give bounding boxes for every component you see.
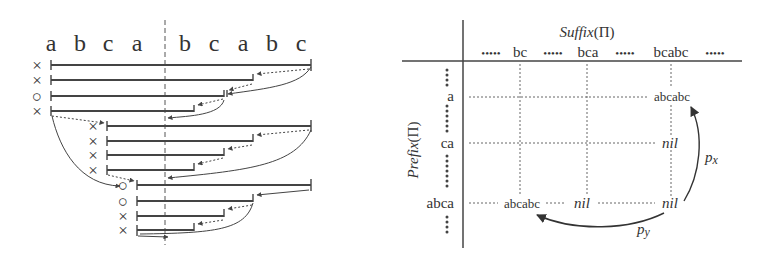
cell-abca-bc: abcabc bbox=[504, 196, 540, 211]
row-a: a bbox=[447, 88, 454, 104]
marker-cross: × bbox=[118, 221, 128, 240]
letter-7: b bbox=[266, 30, 278, 56]
column-header: Suffix(Π) bbox=[560, 24, 615, 41]
column-leader: ••••• bbox=[705, 47, 724, 59]
cell-a-bcabc: abcabc bbox=[654, 89, 690, 104]
cells: abcabc nil abcabc nil nil bbox=[504, 89, 690, 211]
right-diagram: Suffix(Π) ••••• bc ••••• bca ••••• bcabc… bbox=[402, 20, 742, 248]
group-3-markers: ○ ○ × × bbox=[118, 176, 128, 240]
px-arrow bbox=[684, 107, 699, 201]
grid-lines bbox=[469, 64, 671, 203]
column-bc: bc bbox=[513, 44, 528, 60]
marker-cross: × bbox=[88, 161, 98, 180]
column-bca: bca bbox=[578, 44, 599, 60]
row-header: Prefix(Π) bbox=[405, 122, 422, 180]
group-2-markers: × × × × bbox=[88, 117, 98, 180]
letter-8: c bbox=[296, 30, 307, 56]
group-3 bbox=[137, 179, 311, 237]
cell-abca-bcabc: nil bbox=[662, 195, 678, 211]
px-label: px bbox=[704, 149, 719, 167]
row-labels: a ca abca bbox=[427, 88, 455, 211]
string-letters: a b c a b c a b c bbox=[46, 30, 307, 56]
group-2 bbox=[107, 120, 311, 181]
column-bcabc: bcabc bbox=[654, 44, 689, 60]
letter-2: c bbox=[103, 30, 114, 56]
group-1-markers: × × ○ × bbox=[32, 56, 42, 121]
column-labels: ••••• bc ••••• bca ••••• bcabc ••••• bbox=[481, 44, 724, 60]
row-abca: abca bbox=[427, 195, 455, 211]
row-ca: ca bbox=[441, 135, 455, 151]
letter-5: c bbox=[209, 30, 220, 56]
marker-cross: × bbox=[32, 102, 42, 121]
left-diagram: a b c a b c a b c bbox=[32, 20, 311, 245]
column-leader: ••••• bbox=[481, 47, 500, 59]
column-leader: ••••• bbox=[615, 47, 634, 59]
letter-4: b bbox=[179, 30, 191, 56]
cell-ca-bcabc: nil bbox=[662, 135, 678, 151]
cell-abca-bca: nil bbox=[574, 195, 590, 211]
letter-6: a bbox=[238, 30, 249, 56]
letter-3: a bbox=[132, 30, 143, 56]
letter-0: a bbox=[46, 30, 57, 56]
diagram-canvas: a b c a b c a b c bbox=[0, 0, 762, 258]
letter-1: b bbox=[74, 30, 86, 56]
column-leader: ••••• bbox=[543, 47, 562, 59]
py-label: py bbox=[636, 221, 651, 239]
